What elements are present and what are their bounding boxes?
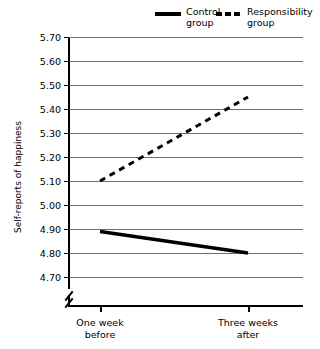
y-tick-label-4.70: 4.70 [40, 272, 61, 283]
y-tick-label-5.50: 5.50 [40, 80, 61, 91]
dashed-line-swatch-icon [216, 6, 242, 19]
x-tick-label-0-line2: before [85, 329, 116, 340]
x-tick-label-0-line1: One week [76, 317, 123, 328]
solid-line-swatch-icon [155, 6, 181, 19]
y-tick-label-5.40: 5.40 [40, 104, 61, 115]
x-tick-label-1-line2: after [237, 329, 259, 340]
legend-label-responsibility-line2: group [247, 17, 275, 28]
y-tick-label-4.80: 4.80 [40, 248, 61, 259]
y-tick-label-5.60: 5.60 [40, 56, 61, 67]
legend-item-control-group: Control group [155, 6, 220, 28]
series-layer [68, 37, 303, 307]
legend-item-responsibility-group: Responsibility group [216, 6, 313, 28]
y-tick-label-4.90: 4.90 [40, 224, 61, 235]
legend-label-responsibility-group: Responsibility group [247, 6, 313, 28]
x-tick-label-1: Three weeksafter [218, 317, 278, 341]
series-line-control-group [100, 231, 248, 253]
legend-label-responsibility-line1: Responsibility [247, 6, 313, 17]
x-tick-label-1-line1: Three weeks [218, 317, 278, 328]
y-tick-label-5.30: 5.30 [40, 128, 61, 139]
series-line-responsibility-group [100, 97, 248, 181]
y-tick-label-5.20: 5.20 [40, 152, 61, 163]
chart-page: Control group Responsibility group Self-… [0, 0, 320, 349]
chart-legend: Control group Responsibility group [155, 6, 320, 36]
y-tick-label-5.10: 5.10 [40, 176, 61, 187]
y-axis-title: Self-reports of happiness [13, 97, 23, 257]
y-tick-label-5.70: 5.70 [40, 32, 61, 43]
legend-label-control-line2: group [186, 17, 214, 28]
y-tick-label-5.00: 5.00 [40, 200, 61, 211]
plot-area: 5.705.605.505.405.305.205.105.004.904.80… [68, 37, 303, 307]
x-tick-label-0: One weekbefore [76, 317, 123, 341]
